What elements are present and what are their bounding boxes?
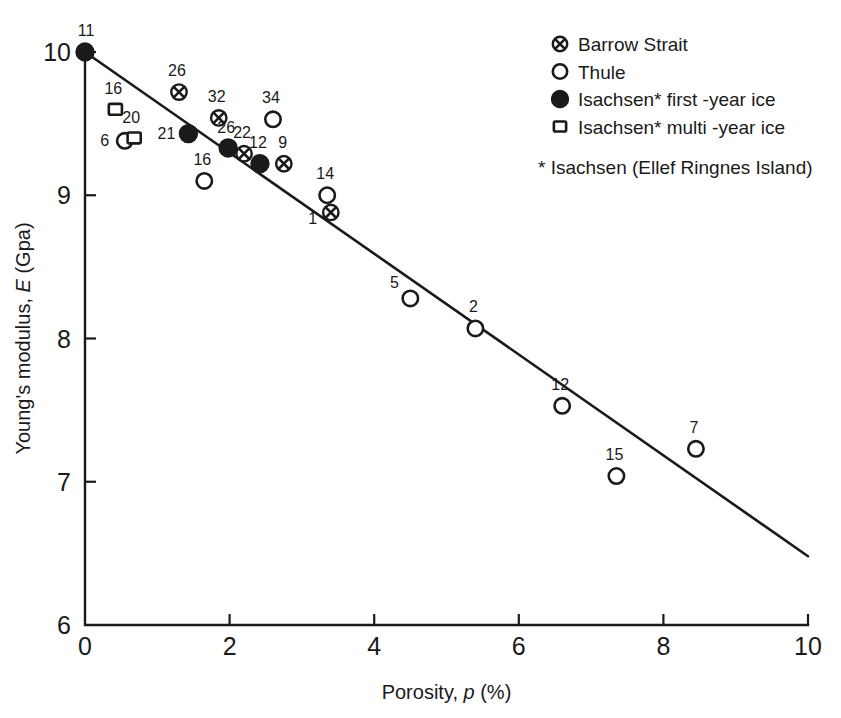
x-tick-label: 8 bbox=[656, 632, 670, 660]
legend-footnote: * Isachsen (Ellef Ringnes Island) bbox=[538, 157, 813, 178]
data-point[interactable]: 9 bbox=[276, 134, 291, 172]
data-point-label: 7 bbox=[689, 419, 698, 436]
data-point-label: 16 bbox=[104, 80, 122, 97]
chart-figure: 0246810678910Porosity, p (%)Young's modu… bbox=[0, 0, 841, 718]
marker-filled-circle bbox=[76, 43, 94, 61]
marker-filled-circle bbox=[219, 139, 237, 157]
data-point-label: 5 bbox=[390, 274, 399, 291]
data-point[interactable]: 11 bbox=[76, 22, 94, 61]
legend-label: Barrow Strait bbox=[578, 34, 689, 55]
y-axis-ticks: 678910 bbox=[43, 38, 96, 639]
x-tick-label: 6 bbox=[512, 632, 526, 660]
data-point[interactable]: 16 bbox=[104, 80, 122, 114]
y-tick-label: 10 bbox=[43, 38, 71, 66]
legend-label: Isachsen* first -year ice bbox=[578, 89, 775, 110]
data-point-label: 12 bbox=[249, 134, 267, 151]
legend: Barrow StraitThuleIsachsen* first -year … bbox=[538, 34, 813, 178]
data-point-label: 6 bbox=[100, 132, 109, 149]
legend-item[interactable]: Isachsen* first -year ice bbox=[552, 89, 776, 110]
y-tick-label: 6 bbox=[57, 611, 71, 639]
legend-label: Thule bbox=[578, 62, 626, 83]
data-point-label: 11 bbox=[78, 22, 95, 39]
marker-open-square bbox=[128, 133, 141, 144]
legend-label: Isachsen* multi -year ice bbox=[578, 117, 785, 138]
legend-item[interactable]: Barrow Strait bbox=[553, 34, 689, 55]
data-point[interactable]: 12 bbox=[551, 376, 570, 414]
data-point[interactable]: 2 bbox=[468, 298, 483, 336]
data-point[interactable]: 21 bbox=[157, 125, 197, 143]
marker-open-circle bbox=[554, 398, 569, 413]
x-tick-label: 4 bbox=[367, 632, 381, 660]
y-axis-title: Young's modulus, E (Gpa) bbox=[12, 222, 34, 454]
data-point[interactable]: 7 bbox=[688, 419, 703, 457]
marker-open-circle bbox=[265, 112, 280, 127]
marker-open-circle bbox=[403, 291, 418, 306]
x-tick-label: 10 bbox=[794, 632, 822, 660]
marker-open-circle bbox=[609, 468, 624, 483]
legend-item[interactable]: Isachsen* multi -year ice bbox=[554, 117, 785, 138]
data-point[interactable]: 14 bbox=[316, 165, 335, 203]
data-point[interactable]: 34 bbox=[262, 89, 281, 127]
marker-open-square bbox=[554, 121, 566, 131]
data-point-label: 2 bbox=[469, 298, 478, 315]
x-axis-title: Porosity, p (%) bbox=[382, 681, 512, 703]
y-tick-label: 9 bbox=[57, 181, 71, 209]
data-point[interactable]: 1 bbox=[308, 205, 338, 228]
data-point[interactable]: 15 bbox=[606, 446, 625, 484]
marker-open-square bbox=[109, 104, 122, 115]
marker-open-circle bbox=[468, 321, 483, 336]
marker-open-circle bbox=[553, 64, 567, 78]
data-point-label: 32 bbox=[208, 88, 226, 105]
x-tick-label: 0 bbox=[78, 632, 92, 660]
marker-open-circle bbox=[320, 188, 335, 203]
series-group: 63416145212157 bbox=[100, 89, 703, 483]
legend-item[interactable]: Thule bbox=[553, 62, 626, 83]
data-point-label: 16 bbox=[193, 151, 211, 168]
data-point-label: 34 bbox=[262, 89, 280, 106]
marker-open-circle bbox=[688, 441, 703, 456]
data-point-label: 12 bbox=[551, 376, 569, 393]
x-axis-ticks: 0246810 bbox=[78, 614, 822, 660]
scatter-plot: 0246810678910Porosity, p (%)Young's modu… bbox=[0, 0, 841, 718]
marker-filled-circle bbox=[552, 91, 569, 108]
data-point-label: 26 bbox=[168, 62, 186, 79]
data-point-label: 15 bbox=[606, 446, 624, 463]
data-point-label: 9 bbox=[278, 134, 287, 151]
data-point-label: 1 bbox=[308, 210, 317, 227]
data-point[interactable]: 16 bbox=[193, 151, 212, 189]
data-point[interactable]: 26 bbox=[168, 62, 187, 100]
data-point-label: 21 bbox=[157, 125, 175, 142]
data-point-label: 14 bbox=[316, 165, 334, 182]
y-tick-label: 7 bbox=[57, 468, 71, 496]
data-point-label: 26 bbox=[217, 119, 235, 136]
y-tick-label: 8 bbox=[57, 325, 71, 353]
data-point-label: 20 bbox=[122, 109, 140, 126]
marker-open-circle bbox=[197, 173, 212, 188]
data-point[interactable]: 5 bbox=[390, 274, 418, 306]
x-tick-label: 2 bbox=[223, 632, 237, 660]
marker-filled-circle bbox=[251, 155, 269, 173]
marker-filled-circle bbox=[179, 125, 197, 143]
